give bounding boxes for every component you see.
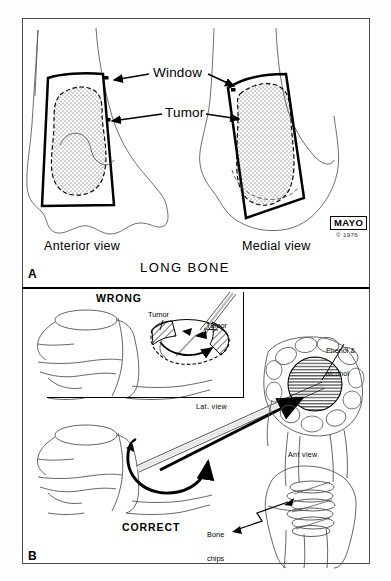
panel-a-letter: A <box>28 268 37 281</box>
label-bone-chips-line2: chips <box>207 555 224 563</box>
label-phenol-line2: alcohol <box>326 370 355 378</box>
mayo-credit-stamp: MAYO <box>330 216 367 230</box>
label-bone-chips: Bone chips <box>207 515 224 579</box>
label-tumor-panel-a: Tumor <box>165 106 205 121</box>
mayo-copyright-notice: © 1976 <box>336 231 358 238</box>
caption-anterior-view: Anterior view <box>44 240 120 254</box>
label-window: Window <box>153 66 202 81</box>
figure-frame <box>22 18 370 564</box>
figure-root: Window Tumor Anterior view Medial view L… <box>0 0 391 581</box>
label-phenol-alcohol: Phenol & alcohol <box>326 331 355 393</box>
label-tumor-inset-left: Tumor <box>148 311 169 319</box>
caption-lateral-view: Lat. view <box>196 403 227 411</box>
panel-b-letter: B <box>28 550 37 563</box>
heading-correct: CORRECT <box>122 522 180 533</box>
caption-anterior-view-b: Ant view <box>288 451 318 459</box>
caption-medial-view: Medial view <box>242 240 311 254</box>
label-tumor-inset-right: Tumor <box>206 322 227 330</box>
label-phenol-line1: Phenol & <box>326 347 355 355</box>
lateral-view-inset-frame <box>47 292 244 398</box>
heading-wrong: WRONG <box>96 293 142 304</box>
panel-divider <box>22 287 370 289</box>
label-bone-chips-line1: Bone <box>207 531 224 539</box>
panel-a-title: LONG BONE <box>140 261 230 275</box>
